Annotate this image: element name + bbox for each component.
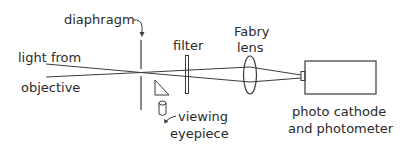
ray-lower-converging (250, 78, 301, 82)
diaphragm-arrowhead (140, 32, 145, 37)
photo-cathode-window (301, 72, 305, 81)
label-photo-cathode: photo cathode (292, 104, 386, 119)
viewing-arrow (166, 116, 176, 121)
label-fabry-line1: Fabry (234, 24, 270, 39)
label-light-from: light from (18, 50, 81, 65)
label-viewing: viewing (178, 109, 228, 124)
photometer-box (305, 61, 376, 94)
ray-upper-converging (250, 67, 301, 75)
fabry-lens (244, 56, 257, 94)
optical-diagram: diaphragm filter Fabry lens light from o… (0, 0, 419, 147)
label-eyepiece: eyepiece (170, 126, 229, 141)
ray-lower-diverging (141, 73, 250, 83)
ray-lower-incoming (46, 73, 141, 78)
eyepiece-top (159, 101, 166, 105)
ray-upper-incoming (46, 64, 141, 73)
label-photometer: and photometer (288, 121, 394, 136)
prism-icon (155, 80, 169, 95)
label-diaphragm: diaphragm (64, 12, 135, 27)
filter (186, 56, 189, 94)
label-filter: filter (173, 38, 204, 53)
label-objective: objective (21, 80, 80, 95)
label-fabry-line2: lens (237, 40, 264, 55)
ray-upper-diverging (141, 67, 250, 73)
